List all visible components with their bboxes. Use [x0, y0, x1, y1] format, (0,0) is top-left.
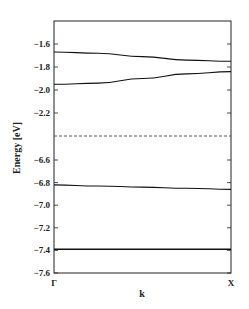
y-tick-label: −7.6 — [34, 268, 51, 278]
plot-frame — [54, 21, 231, 273]
y-tick-label: −7.4 — [34, 245, 51, 255]
y-tick-label: −7.2 — [34, 223, 51, 233]
y-axis-ticks: −1.6−1.8−2.0−2.2−6.6−6.8−7.0−7.2−7.4−7.6 — [34, 39, 231, 278]
band-structure-chart: −1.6−1.8−2.0−2.2−6.6−6.8−7.0−7.2−7.4−7.6… — [0, 0, 249, 309]
band-line-band2 — [54, 72, 231, 85]
y-tick-label: −1.8 — [34, 62, 51, 72]
band-lines — [54, 52, 231, 249]
y-tick-label: −1.6 — [34, 39, 51, 49]
y-tick-label: −2.0 — [34, 85, 51, 95]
y-tick-label: −7.0 — [34, 200, 51, 210]
y-axis-label: Energy [eV] — [11, 122, 22, 174]
y-tick-label: −6.6 — [34, 155, 51, 165]
y-tick-label: −6.8 — [34, 178, 51, 188]
x-tick-gamma: Γ — [51, 278, 57, 288]
y-tick-label: −2.2 — [34, 108, 51, 118]
x-axis-label: k — [139, 288, 145, 299]
band-line-band3 — [54, 185, 231, 190]
band-line-band1 — [54, 52, 231, 61]
x-tick-x: X — [228, 278, 235, 288]
